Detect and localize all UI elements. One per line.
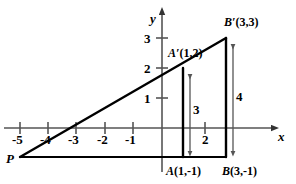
y-tick-label-1: 1 [144,92,151,105]
point-label-b-prime-name: B [224,15,232,29]
x-tick-label-2: 2 [202,133,209,146]
point-label-a-name: A [166,164,174,178]
y-tick-label-2: 2 [144,62,151,75]
x-tick-label--3: -3 [68,133,79,146]
point-label-b-prime: B′(3,3) [224,16,258,28]
point-label-a-coords: (1,-1) [174,164,201,178]
point-label-b-prime-coords: (3,3) [235,15,258,29]
y-tick-label-3: 3 [144,32,151,45]
geometry-figure: y x 1 2 3 -5 -4 -3 -2 -1 2 P A′(1,2) B′(… [0,0,296,184]
point-label-b: B(3,-1) [222,165,257,177]
measure-label-3: 3 [193,103,200,116]
y-axis-label: y [150,12,156,25]
point-label-b-coords: (3,-1) [230,164,257,178]
point-label-a-prime-name: A [168,46,176,60]
x-tick-label--2: -2 [97,133,108,146]
x-tick-label--5: -5 [12,133,23,146]
measure-label-4: 4 [236,90,243,103]
point-label-a: A(1,-1) [166,165,201,177]
point-label-a-prime-coords: (1,2) [179,46,202,60]
x-tick-label--4: -4 [40,133,51,146]
point-label-b-name: B [222,164,230,178]
point-label-p: P [6,152,14,165]
x-tick-label--1: -1 [125,133,136,146]
x-axis-label: x [278,130,285,143]
y-axis [156,14,168,172]
point-label-a-prime: A′(1,2) [168,47,202,59]
